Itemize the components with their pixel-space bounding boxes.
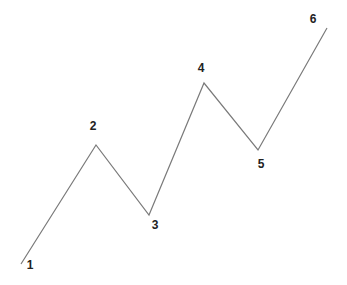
point-label-2: 2 [90,119,97,133]
point-label-1: 1 [27,258,34,272]
point-label-6: 6 [310,12,317,26]
wave-diagram: 1 2 3 4 5 6 [0,0,347,285]
point-labels: 1 2 3 4 5 6 [27,12,317,272]
point-label-5: 5 [258,157,265,171]
point-label-4: 4 [198,61,205,75]
wave-line [21,28,327,264]
point-label-3: 3 [152,218,159,232]
